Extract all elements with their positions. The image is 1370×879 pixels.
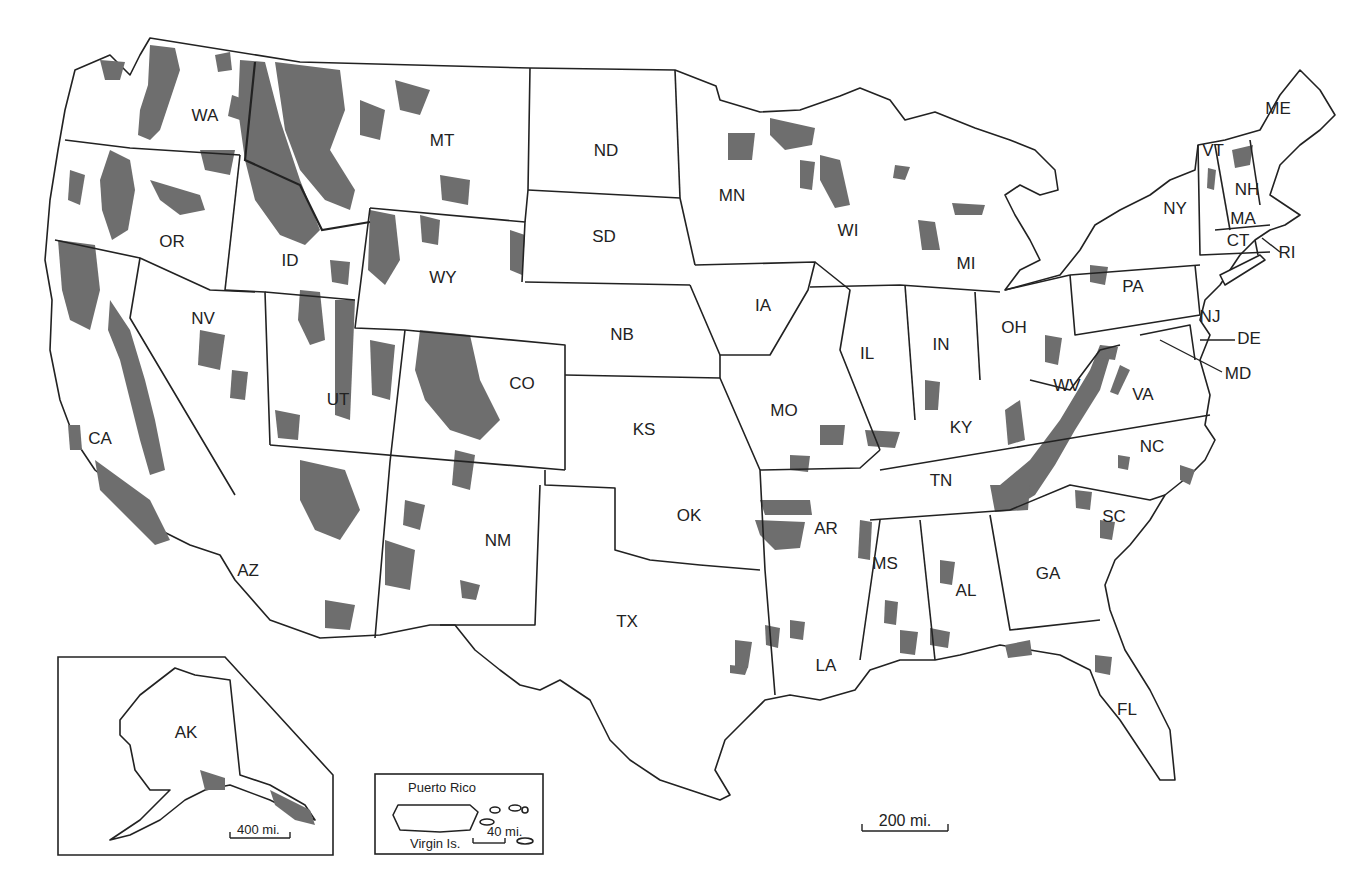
label-nb: NB [610,325,634,344]
label-al: AL [956,581,977,600]
alaska-scale-label: 400 mi. [237,822,280,837]
label-nh: NH [1235,180,1260,199]
label-mt: MT [430,131,455,150]
label-me: ME [1265,99,1291,118]
label-nd: ND [594,141,619,160]
label-ok: OK [677,506,702,525]
label-ga: GA [1036,564,1061,583]
label-ma: MA [1230,209,1256,228]
label-wa: WA [192,106,219,125]
label-ca: CA [88,429,112,448]
label-oh: OH [1001,318,1027,337]
scale-bar-label: 200 mi. [879,812,931,829]
label-md: MD [1225,364,1251,383]
label-in: IN [933,335,950,354]
label-ri: RI [1279,243,1296,262]
us-forest-map: WAORCAIDNVMTWYUTAZCONMNDSDNBKSOKTXMNIAMO… [0,0,1370,879]
alaska-inset: AK 400 mi. [58,657,333,855]
label-ks: KS [633,420,656,439]
label-az: AZ [237,561,259,580]
label-fl: FL [1117,700,1137,719]
label-pa: PA [1122,277,1144,296]
label-va: VA [1132,385,1154,404]
label-wy: WY [429,268,456,287]
label-la: LA [816,656,837,675]
label-sd: SD [592,227,616,246]
label-nc: NC [1140,437,1165,456]
label-ia: IA [755,296,772,315]
label-tx: TX [616,612,638,631]
label-wv: WV [1053,376,1081,395]
label-vt: VT [1202,141,1224,160]
label-sc: SC [1102,507,1126,526]
label-ms: MS [872,554,898,573]
label-ut: UT [327,390,350,409]
label-ky: KY [950,418,973,437]
label-ny: NY [1163,199,1187,218]
label-wi: WI [838,221,859,240]
puerto-rico-inset: Puerto Rico Virgin Is. 40 mi. [375,774,543,854]
scale-bar: 200 mi. [862,812,948,831]
label-ar: AR [814,519,838,538]
label-ak: AK [175,723,198,742]
virgin-islands-label: Virgin Is. [410,836,460,851]
puerto-rico-title: Puerto Rico [408,780,476,795]
label-nj: NJ [1200,307,1221,326]
label-mn: MN [719,186,745,205]
label-mo: MO [770,401,797,420]
label-ct: CT [1227,231,1250,250]
label-de: DE [1237,329,1261,348]
label-il: IL [860,344,874,363]
pr-scale-label: 40 mi. [487,824,522,839]
label-nv: NV [191,309,215,328]
ri-leader-line [1262,238,1280,252]
label-nm: NM [485,531,511,550]
label-or: OR [159,232,185,251]
label-id: ID [282,251,299,270]
label-co: CO [509,374,535,393]
label-tn: TN [930,471,953,490]
label-mi: MI [957,254,976,273]
